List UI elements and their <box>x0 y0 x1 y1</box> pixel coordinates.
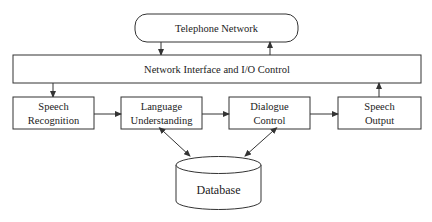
speech-output-label-line1: Speech <box>364 101 395 112</box>
network-interface-node: Network Interface and I/O Control <box>13 55 421 83</box>
speech-output-label-line2: Output <box>365 115 394 126</box>
telephone-network-node: Telephone Network <box>135 14 298 42</box>
network-interface-label: Network Interface and I/O Control <box>144 64 290 75</box>
speech-recognition-node: Speech Recognition <box>13 97 94 129</box>
system-architecture-diagram: Telephone Network Network Interface and … <box>0 0 432 222</box>
telephone-network-label: Telephone Network <box>175 23 259 34</box>
database-label: Database <box>197 183 241 197</box>
language-understanding-node: Language Understanding <box>121 97 202 129</box>
language-understanding-label-line1: Language <box>141 101 183 112</box>
language-understanding-label-line2: Understanding <box>131 115 194 126</box>
dialogue-control-label-line1: Dialogue <box>250 101 289 112</box>
database-node: Database <box>176 157 261 210</box>
dialogue-control-node: Dialogue Control <box>229 97 310 129</box>
database-cylinder-top <box>176 157 261 174</box>
arrow-dialogue-database <box>245 131 273 156</box>
arrow-understanding-database <box>163 131 190 156</box>
speech-recognition-label-line1: Speech <box>38 101 69 112</box>
speech-output-node: Speech Output <box>338 97 421 129</box>
speech-recognition-label-line2: Recognition <box>28 115 80 126</box>
dialogue-control-label-line2: Control <box>253 115 285 126</box>
